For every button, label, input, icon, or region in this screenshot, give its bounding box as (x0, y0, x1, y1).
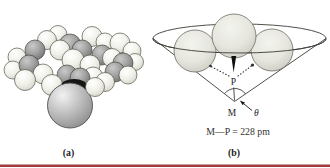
substituent-sphere-center (212, 14, 256, 58)
theta-label: θ (254, 108, 259, 118)
dotted-line-right (238, 66, 252, 77)
theta-angle-arc (225, 89, 246, 94)
panel-a-caption: (a) (63, 147, 74, 159)
textbook-figure: P M θ M—P = 228 pm (a) (b) (0, 0, 330, 167)
contact-dot-right (251, 63, 254, 66)
wedge-bond (231, 56, 236, 73)
theta-arrow-line (244, 104, 252, 111)
substituent-sphere-right (251, 29, 293, 71)
bond-length-text: M—P = 228 pm (206, 126, 270, 137)
p-atom-label: P (231, 77, 236, 87)
molecule-model (4, 26, 144, 129)
panel-b-caption: (b) (228, 147, 240, 159)
dotted-line-left (211, 67, 229, 77)
contact-dot-left (209, 65, 212, 68)
figure-bottom-rule (0, 165, 330, 168)
figure-canvas: P M θ M—P = 228 pm (a) (b) (0, 0, 330, 167)
m-atom-label: M (228, 108, 237, 118)
cone-angle-diagram: P M θ M—P = 228 pm (153, 14, 326, 137)
p-m-axis-line (234, 88, 235, 101)
